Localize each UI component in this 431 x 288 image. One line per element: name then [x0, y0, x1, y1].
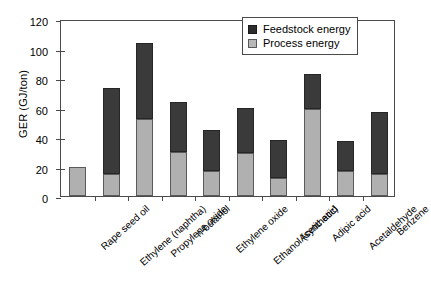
bar-segment-process: [170, 152, 187, 196]
x-axis-label: Rape seed oil: [98, 203, 151, 252]
x-tick: [195, 196, 196, 201]
bar: [237, 108, 254, 197]
bar-segment-process: [69, 167, 86, 197]
bar: [304, 74, 321, 196]
bar: [337, 141, 354, 196]
bar-segment-process: [103, 174, 120, 196]
x-axis-label: Ethylene oxide: [234, 203, 290, 255]
x-tick: [329, 196, 330, 201]
x-tick: [229, 196, 230, 201]
x-tick: [162, 196, 163, 201]
y-tick-label: 120: [30, 16, 48, 28]
x-tick: [95, 196, 96, 201]
bar-segment-feedstock: [170, 102, 187, 152]
bar-segment-feedstock: [237, 108, 254, 154]
legend-swatch-process-icon: [248, 39, 257, 48]
bar: [270, 140, 287, 196]
y-tick: 0: [56, 198, 61, 199]
legend-swatch-feedstock-icon: [248, 25, 257, 34]
y-tick: 120: [56, 21, 61, 22]
bar-segment-process: [371, 174, 388, 196]
bar-segment-feedstock: [337, 141, 354, 171]
bar-segment-feedstock: [304, 74, 321, 109]
chart-legend: Feedstock energy Process energy: [242, 17, 358, 55]
y-tick-label: 60: [36, 105, 48, 117]
bar-segment-feedstock: [270, 140, 287, 178]
bar-segment-process: [337, 171, 354, 196]
legend-item: Feedstock energy: [248, 22, 350, 36]
bar-segment-process: [203, 171, 220, 196]
y-tick-label: 0: [42, 193, 48, 205]
bar-segment-process: [270, 178, 287, 196]
y-tick-inner: [61, 51, 65, 52]
bar: [203, 130, 220, 196]
bar-segment-feedstock: [371, 112, 388, 174]
legend-label-feedstock: Feedstock energy: [263, 23, 350, 35]
y-tick-label: 40: [36, 134, 48, 146]
legend-item: Process energy: [248, 36, 350, 50]
bar-segment-feedstock: [203, 130, 220, 171]
y-tick-label: 20: [36, 164, 48, 176]
y-tick-inner: [61, 80, 65, 81]
bar-segment-process: [304, 109, 321, 196]
y-tick-label: 80: [36, 75, 48, 87]
bar-segment-process: [136, 119, 153, 196]
bar: [170, 102, 187, 196]
bar: [136, 43, 153, 196]
y-tick-inner: [61, 169, 65, 170]
bar: [371, 112, 388, 196]
bar: [69, 167, 86, 197]
y-tick-inner: [61, 139, 65, 140]
x-tick: [262, 196, 263, 201]
x-tick: [128, 196, 129, 201]
x-tick: [363, 196, 364, 201]
y-tick-inner: [61, 110, 65, 111]
y-axis-title: GER (GJ/ton): [17, 29, 29, 179]
bar-segment-feedstock: [136, 43, 153, 120]
bar-segment-process: [237, 153, 254, 196]
bar-segment-feedstock: [103, 88, 120, 174]
bar: [103, 88, 120, 196]
legend-label-process: Process energy: [263, 37, 339, 49]
y-tick-label: 100: [30, 46, 48, 58]
x-tick: [296, 196, 297, 201]
